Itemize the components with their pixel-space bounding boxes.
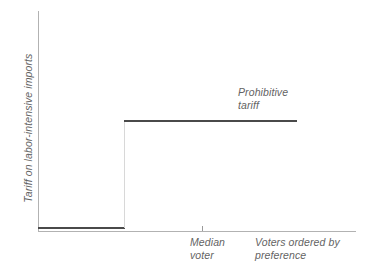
y-axis-label: Tariff on labor-intensive imports [22,48,35,208]
data-segment-prohibitive-tariff [124,120,297,122]
chart-figure: Tariff on labor-intensive imports Prohib… [0,0,366,273]
x-axis-label: Voters ordered by preference [255,236,340,261]
y-axis-line [38,11,39,232]
x-axis-line [38,231,356,232]
annotation-prohibitive-tariff: Prohibitive tariff [238,86,288,111]
x-axis-tick-median-voter [202,226,203,231]
x-axis-tick-label-median-voter: Median voter [190,236,225,261]
data-segment-low-tariff [38,227,125,229]
data-segment-vertical-jump [124,121,125,228]
